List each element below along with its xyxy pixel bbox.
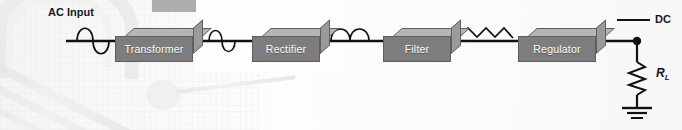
ac-input-label: AC Input	[48, 6, 94, 18]
load-resistor-zigzag-icon	[629, 62, 645, 95]
load-resistor-symbol: R	[656, 66, 665, 80]
waveform-pulsating-dc-icon	[331, 29, 369, 41]
block-rectifier[interactable]: Rectifier	[252, 28, 330, 62]
diagram-layer: Transformer Rectifier Filter Regulator	[0, 0, 682, 130]
power-supply-block-diagram: Transformer Rectifier Filter Regulator	[0, 0, 682, 130]
rectifier-label: Rectifier	[266, 43, 306, 55]
block-regulator[interactable]: Regulator	[518, 28, 606, 62]
transformer-label: Transformer	[125, 43, 184, 55]
transformer-front-face: Transformer	[115, 36, 193, 62]
regulator-front-face: Regulator	[518, 36, 596, 62]
filter-front-face: Filter	[383, 36, 451, 62]
regulator-label: Regulator	[533, 43, 580, 55]
load-resistor-label: RL	[656, 66, 670, 82]
filter-label: Filter	[405, 43, 430, 55]
circuit-drawing	[0, 0, 682, 130]
dc-output-label: DC	[655, 13, 671, 25]
load-resistor-subscript: L	[665, 73, 670, 82]
block-transformer[interactable]: Transformer	[115, 28, 203, 62]
block-filter[interactable]: Filter	[383, 28, 461, 62]
rectifier-front-face: Rectifier	[252, 36, 320, 62]
